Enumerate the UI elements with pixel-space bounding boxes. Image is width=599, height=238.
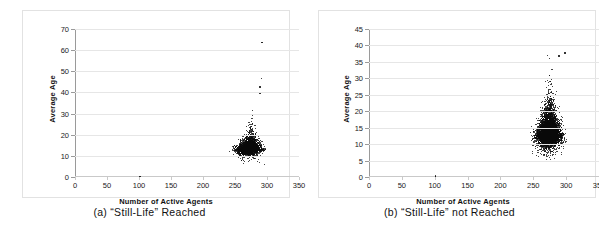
plot-area-b: 051015202530354045050100150200250300350 [369,29,599,177]
x-tick [566,177,567,180]
y-tick [365,128,369,129]
y-tick-label: 20 [355,107,363,116]
gridline [369,128,599,129]
x-tick-label: 0 [367,181,371,190]
panel-a: Average Age Number of Active Agents 0102… [0,0,299,238]
scatter-outlier [261,78,263,80]
gridline [75,29,299,30]
y-tick [365,111,369,112]
y-tick [365,45,369,46]
gridline [369,78,599,79]
y-tick-label: 70 [61,25,69,34]
y-tick [365,144,369,145]
y-tick-label: 30 [61,109,69,118]
x-tick-label: 350 [593,181,599,190]
x-tick [369,177,370,180]
y-tick [365,62,369,63]
y-tick [365,29,369,30]
x-tick-label: 150 [461,181,474,190]
gridline [369,29,599,30]
y-tick-label: 45 [355,25,363,34]
gridline [369,161,599,162]
y-tick-label: 35 [355,57,363,66]
x-axis-line-a [75,176,299,177]
gridline [75,156,299,157]
panel-b: Average Age Number of Active Agents 0510… [300,0,599,238]
x-tick [267,177,268,180]
chart-frame-b: Average Age Number of Active Agents 0510… [318,10,596,198]
y-tick-label: 5 [359,156,363,165]
y-tick-label: 40 [61,88,69,97]
x-tick-label: 100 [133,181,146,190]
y-tick [71,92,75,93]
y-tick-label: 50 [61,67,69,76]
y-tick-label: 40 [355,41,363,50]
x-tick-label: 200 [197,181,210,190]
x-tick [107,177,108,180]
caption-a: (a) “Still-Life” Reached [0,206,299,218]
x-tick-label: 50 [398,181,406,190]
gridline [369,144,599,145]
x-axis-line-b [369,176,599,177]
gridline [75,135,299,136]
y-tick-label: 10 [355,140,363,149]
scatter-outlier [564,52,566,54]
x-tick-label: 200 [494,181,507,190]
gridline [369,62,599,63]
y-tick-label: 10 [61,151,69,160]
y-tick-label: 30 [355,74,363,83]
x-tick [203,177,204,180]
x-tick [139,177,140,180]
y-tick-label: 25 [355,90,363,99]
x-tick [402,177,403,180]
y-tick [71,29,75,30]
y-tick [71,50,75,51]
y-axis-title-a: Average Age [48,75,57,123]
gridline [75,71,299,72]
x-axis-title-b: Number of Active Agents [325,197,599,206]
x-axis-title-a: Number of Active Agents [33,197,299,206]
caption-b: (b) “Still-Life” not Reached [300,206,599,218]
x-tick-label: 0 [73,181,77,190]
y-axis-line-b [369,29,370,177]
gridline [75,92,299,93]
y-tick-label: 60 [61,46,69,55]
x-tick-label: 50 [103,181,111,190]
y-tick [71,135,75,136]
gridline [75,50,299,51]
y-tick-label: 0 [359,173,363,182]
scatter-outlier [261,42,263,44]
x-tick-label: 150 [165,181,178,190]
scatter-outlier [558,55,560,57]
y-tick [365,95,369,96]
scatter-outlier [259,86,261,88]
x-tick-label: 250 [527,181,540,190]
x-tick [75,177,76,180]
y-axis-title-b: Average Age [342,75,351,123]
y-tick [71,114,75,115]
x-tick [500,177,501,180]
x-tick-label: 250 [229,181,242,190]
x-tick [235,177,236,180]
y-axis-line-a [75,29,76,177]
scatter-figure: Average Age Number of Active Agents 0102… [0,0,599,238]
y-tick-label: 20 [61,130,69,139]
x-tick-label: 100 [428,181,441,190]
x-tick-label: 300 [261,181,274,190]
y-tick [365,161,369,162]
gridline [75,114,299,115]
x-tick [171,177,172,180]
y-tick [71,156,75,157]
x-tick [435,177,436,180]
gridline [369,111,599,112]
scatter-points-a [75,29,299,177]
plot-area-a: 010203040506070050100150200250300350 [75,29,299,177]
chart-frame-a: Average Age Number of Active Agents 0102… [22,10,290,198]
y-tick [71,71,75,72]
gridline [369,95,599,96]
x-tick [533,177,534,180]
y-tick-label: 15 [355,123,363,132]
y-tick-label: 0 [65,173,69,182]
y-tick [365,78,369,79]
x-tick-label: 300 [560,181,573,190]
